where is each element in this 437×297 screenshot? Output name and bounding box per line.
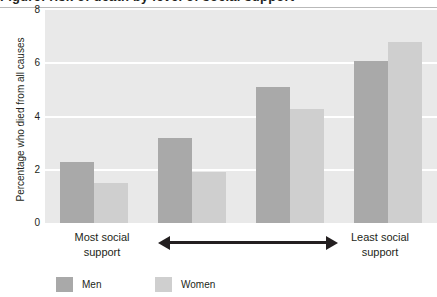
arrow-shaft [168, 241, 328, 244]
legend-swatch-women [155, 277, 172, 292]
bar-chart: Percentage who died from all causes 0246… [0, 8, 437, 297]
legend-item-women: Women [155, 276, 215, 292]
y-tick-label-2: 2 [22, 165, 40, 175]
y-tick-label-8: 8 [22, 5, 40, 15]
plot-area [45, 10, 437, 223]
bar-women-group-1 [94, 183, 128, 223]
legend-item-men: Men [56, 276, 101, 292]
y-axis-ticks: 02468 [22, 8, 40, 238]
bar-men-group-3 [256, 87, 290, 223]
x-axis-label-most-support: Most social support [47, 230, 157, 260]
y-tick-label-0: 0 [22, 218, 40, 228]
bar-men-group-4 [354, 61, 388, 223]
bar-women-group-4 [388, 42, 422, 223]
x-axis-annotation: Most social support Least social support [0, 230, 437, 274]
chart-legend: Men Women [0, 276, 437, 297]
bar-men-group-2 [158, 138, 192, 223]
least-support-line2: support [325, 245, 435, 260]
y-tick-label-6: 6 [22, 58, 40, 68]
bar-men-group-1 [60, 162, 94, 223]
legend-label-women: Women [181, 279, 215, 290]
page-title-text: Figure: risk of death by level of social… [0, 0, 437, 4]
least-support-line1: Least social [325, 230, 435, 245]
bar-women-group-3 [290, 109, 324, 223]
bar-women-group-2 [192, 172, 226, 223]
most-support-line2: support [47, 245, 157, 260]
y-tick-label-4: 4 [22, 112, 40, 122]
x-axis-label-least-support: Least social support [325, 230, 435, 260]
most-support-line1: Most social [47, 230, 157, 245]
legend-label-men: Men [82, 279, 101, 290]
gradient-arrow [158, 236, 338, 250]
page-title-cropped: Figure: risk of death by level of social… [0, 0, 437, 7]
legend-swatch-men [56, 277, 73, 292]
